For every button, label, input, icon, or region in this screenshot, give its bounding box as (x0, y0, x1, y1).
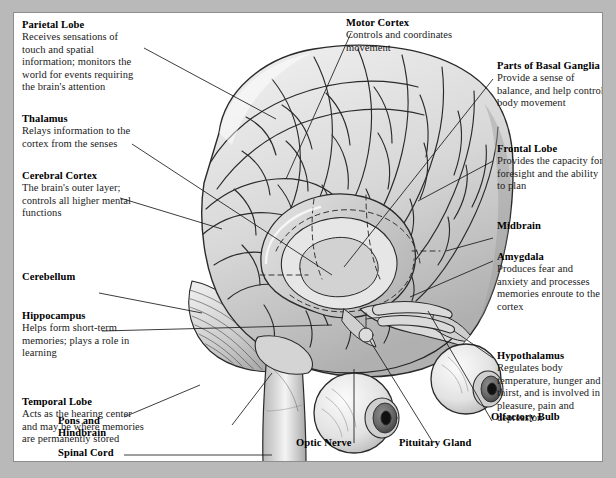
callout-motor-cortex: Motor Cortex Controls and coordinates mo… (346, 17, 468, 54)
callout-title: Cerebral Cortex (22, 170, 140, 182)
callout-description: Relays information to the cortex from th… (22, 125, 140, 150)
callout-description: Produces fear and anxiety and processes … (497, 263, 603, 313)
callout-optic-nerve: Optic Nerve (296, 437, 352, 449)
callout-title: Parts of Basal Ganglia (497, 60, 603, 72)
callout-description: Provides the capacity for foresight and … (497, 155, 603, 192)
callout-hippocampus: Hippocampus Helps form short-term memori… (22, 310, 134, 360)
diagram-frame: Parietal Lobe Receives sensations of tou… (13, 12, 603, 462)
callout-cerebral-cortex: Cerebral Cortex The brain's outer layer;… (22, 170, 140, 220)
callout-pons-hindbrain: Pons and Hindbrain (58, 415, 138, 440)
callout-title: Hypothalamus (497, 350, 603, 362)
callout-title: Cerebellum (22, 271, 75, 283)
callout-amygdala: Amygdala Produces fear and anxiety and p… (497, 251, 603, 313)
callout-title: Pons and Hindbrain (58, 415, 138, 440)
callout-description: The brain's outer layer; controls all hi… (22, 182, 140, 219)
callout-title: Thalamus (22, 113, 140, 125)
callout-thalamus: Thalamus Relays information to the corte… (22, 113, 140, 150)
callout-title: Amygdala (497, 251, 603, 263)
callout-description: Provide a sense of balance, and help con… (497, 72, 603, 109)
callout-description: Receives sensations of touch and spatial… (22, 31, 140, 93)
callout-basal-ganglia: Parts of Basal Ganglia Provide a sense o… (497, 60, 603, 110)
callout-title: Spinal Cord (58, 447, 114, 459)
callout-title: Optic Nerve (296, 437, 352, 449)
callout-description: Helps form short-term memories; plays a … (22, 322, 134, 359)
callout-description: Controls and coordinates movement (346, 29, 468, 54)
callout-cerebellum: Cerebellum (22, 271, 75, 283)
callout-frontal-lobe: Frontal Lobe Provides the capacity for f… (497, 143, 603, 193)
callout-title: Hippocampus (22, 310, 134, 322)
callout-midbrain: Midbrain (497, 220, 541, 232)
callout-title: Olfactory Bulb (491, 411, 560, 423)
callout-title: Frontal Lobe (497, 143, 603, 155)
callout-spinal-cord: Spinal Cord (58, 447, 114, 459)
callout-parietal-lobe: Parietal Lobe Receives sensations of tou… (22, 19, 140, 93)
callout-olfactory-bulb: Olfactory Bulb (491, 411, 560, 423)
callout-title: Midbrain (497, 220, 541, 232)
callout-title: Temporal Lobe (22, 396, 144, 408)
callout-pituitary-gland: Pituitary Gland (399, 437, 471, 449)
callout-title: Pituitary Gland (399, 437, 471, 449)
callout-title: Motor Cortex (346, 17, 468, 29)
callout-title: Parietal Lobe (22, 19, 140, 31)
